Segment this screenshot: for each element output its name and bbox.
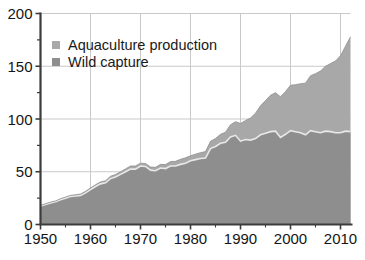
x-tick-label: 2010	[324, 230, 357, 247]
x-tick-label: 1960	[74, 230, 107, 247]
stacked-area-chart: 050100150200 195019601970198019902000201…	[0, 0, 365, 260]
y-tick-label: 50	[16, 163, 33, 180]
legend-swatch-aquaculture	[52, 41, 60, 49]
x-tick-label: 1990	[224, 230, 257, 247]
chart-canvas: 050100150200 195019601970198019902000201…	[0, 0, 365, 260]
y-tick-label: 150	[7, 58, 32, 75]
x-axis-tick-labels: 1950196019701980199020002010	[24, 230, 357, 247]
x-tick-label: 1980	[174, 230, 207, 247]
y-tick-label: 100	[7, 111, 32, 128]
legend-swatch-wild_capture	[52, 58, 60, 66]
x-tick-label: 1950	[24, 230, 57, 247]
legend-label-aquaculture: Aquaculture production	[68, 37, 217, 53]
y-tick-label: 200	[7, 5, 32, 22]
legend-label-wild_capture: Wild capture	[68, 54, 149, 70]
x-tick-label: 2000	[274, 230, 307, 247]
x-tick-label: 1970	[124, 230, 157, 247]
